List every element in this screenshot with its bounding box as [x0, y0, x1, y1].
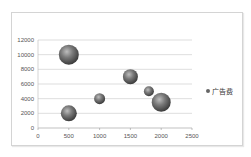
- y-tick-label: 6000: [21, 81, 35, 87]
- x-tick-label: 500: [64, 133, 75, 139]
- bubble-chart: 0200040006000800010000120000500100015002…: [0, 0, 251, 157]
- y-tick-label: 2000: [21, 110, 35, 116]
- axes: 0200040006000800010000120000500100015002…: [17, 37, 199, 139]
- x-tick-label: 1000: [93, 133, 107, 139]
- x-tick-label: 0: [36, 133, 40, 139]
- bubble[interactable]: [94, 93, 105, 104]
- y-tick-label: 12000: [17, 37, 34, 43]
- bubble[interactable]: [61, 105, 77, 121]
- legend-label: 广告费: [212, 86, 233, 96]
- legend-marker-icon: [206, 89, 210, 93]
- y-tick-label: 0: [31, 125, 35, 131]
- y-tick-label: 8000: [21, 66, 35, 72]
- bubble[interactable]: [152, 93, 171, 112]
- y-tick-label: 4000: [21, 96, 35, 102]
- bubble[interactable]: [144, 86, 154, 96]
- bubbles: [59, 45, 171, 122]
- bubble[interactable]: [59, 45, 79, 65]
- x-tick-label: 2000: [155, 133, 169, 139]
- bubble[interactable]: [123, 69, 138, 84]
- x-tick-label: 2500: [185, 133, 199, 139]
- y-tick-label: 10000: [17, 52, 34, 58]
- x-tick-label: 1500: [124, 133, 138, 139]
- legend: 广告费: [206, 86, 233, 96]
